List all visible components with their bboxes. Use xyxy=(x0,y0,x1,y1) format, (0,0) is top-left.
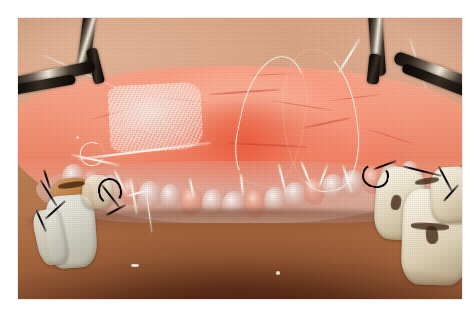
saliva-speck xyxy=(76,136,79,139)
figure-frame: Intraoral clinical photograph — maxillar… xyxy=(0,0,474,309)
papilla xyxy=(160,184,181,212)
tooth-fissure xyxy=(426,225,439,244)
clinical-photograph xyxy=(18,18,462,299)
papilla xyxy=(138,181,162,212)
papilla xyxy=(284,182,306,210)
graft-patch xyxy=(107,82,204,154)
saliva-speck xyxy=(276,271,280,275)
